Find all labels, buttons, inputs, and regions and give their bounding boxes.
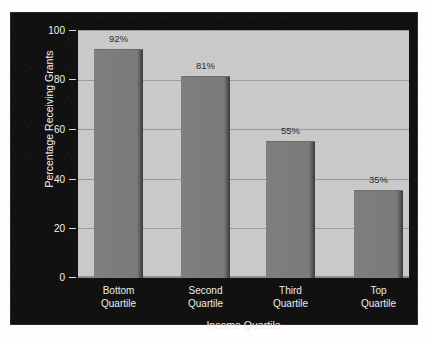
y-tick-label-40: 40 [31, 174, 65, 185]
x-category-line-1: Bottom [69, 284, 168, 297]
x-category-third-quartile: Third Quartile [241, 284, 340, 310]
x-category-line-1: Top [329, 284, 428, 297]
x-axis-title: Income Quartile [78, 319, 409, 331]
y-tick-label-20: 20 [31, 223, 65, 234]
chart-panel: Percentage Receiving Grants 100 80 60 40… [10, 12, 418, 325]
gridline-100 [78, 30, 409, 31]
y-tick-label-60: 60 [31, 124, 65, 135]
x-category-bottom-quartile: Bottom Quartile [69, 284, 168, 310]
bar-value-label-third-quartile: 55% [266, 125, 315, 136]
y-tick-label-80: 80 [31, 74, 65, 85]
chart-figure: Percentage Receiving Grants 100 80 60 40… [0, 0, 430, 339]
y-tick-mark-0 [69, 277, 76, 278]
bar-value-label-top-quartile: 35% [354, 174, 403, 185]
plot-area [78, 30, 409, 278]
y-tick-mark-80 [69, 79, 76, 80]
bar-bottom-quartile[interactable] [94, 49, 143, 278]
y-axis-title: Percentage Receiving Grants [43, 24, 55, 214]
x-category-top-quartile: Top Quartile [329, 284, 428, 310]
y-tick-mark-100 [69, 30, 76, 31]
x-category-line-2: Quartile [69, 297, 168, 310]
y-tick-mark-40 [69, 179, 76, 180]
bar-value-label-bottom-quartile: 92% [94, 33, 143, 44]
y-tick-label-100: 100 [31, 25, 65, 36]
x-category-line-2: Quartile [241, 297, 340, 310]
y-tick-mark-20 [69, 228, 76, 229]
bar-third-quartile[interactable] [266, 141, 315, 278]
x-category-line-1: Third [241, 284, 340, 297]
bar-second-quartile[interactable] [181, 76, 230, 278]
y-tick-label-0: 0 [31, 272, 65, 283]
bar-top-quartile[interactable] [354, 190, 403, 278]
bar-value-label-second-quartile: 81% [181, 60, 230, 71]
y-tick-mark-60 [69, 129, 76, 130]
x-category-line-2: Quartile [329, 297, 428, 310]
